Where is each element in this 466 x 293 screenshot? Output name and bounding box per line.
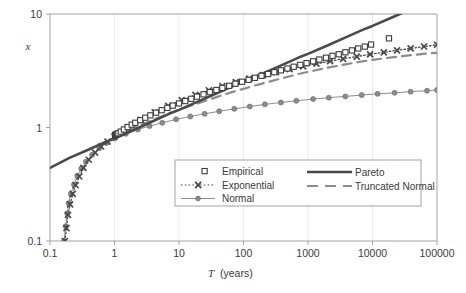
- data-point-marker: [183, 98, 188, 103]
- data-point-marker: [174, 117, 179, 122]
- data-point-marker: [143, 115, 148, 120]
- data-point-marker: [201, 92, 206, 97]
- data-point-marker: [220, 85, 225, 90]
- data-point-marker: [285, 66, 290, 71]
- data-point-marker: [278, 100, 283, 105]
- data-point-marker: [246, 77, 251, 82]
- data-point-marker: [375, 91, 380, 96]
- data-point-marker: [214, 87, 219, 92]
- data-point-marker: [148, 113, 153, 118]
- x-tick-label: 1: [112, 247, 118, 259]
- y-axis-title: x: [25, 40, 31, 52]
- data-point-marker: [359, 93, 364, 98]
- y-tick-label: 0.1: [27, 235, 42, 247]
- data-point-marker: [298, 62, 303, 67]
- x-tick-label: 0.1: [43, 247, 58, 259]
- data-point-marker: [294, 98, 299, 103]
- data-point-marker: [356, 46, 361, 51]
- data-point-marker: [194, 94, 199, 99]
- data-point-marker: [265, 71, 270, 76]
- data-point-marker: [217, 109, 222, 114]
- data-point-marker: [323, 55, 328, 60]
- data-point-marker: [176, 101, 181, 106]
- legend-marker-normal: [196, 196, 201, 201]
- data-point-marker: [252, 75, 257, 80]
- legend-label-empirical: Empirical: [222, 166, 263, 177]
- data-point-marker: [227, 83, 232, 88]
- data-point-marker: [311, 97, 316, 102]
- data-point-marker: [392, 90, 397, 95]
- chart-container: 0.1110100100010000100000 0.1110 T (years…: [0, 0, 466, 293]
- data-point-marker: [330, 53, 335, 58]
- data-point-marker: [343, 94, 348, 99]
- data-point-marker: [425, 88, 430, 93]
- x-tick-label: 10: [173, 247, 185, 259]
- chart-background: [0, 0, 466, 293]
- data-point-marker: [202, 111, 207, 116]
- data-point-marker: [189, 96, 194, 101]
- data-point-marker: [336, 52, 341, 57]
- legend-label-normal: Normal: [222, 193, 254, 204]
- x-tick-label: 1000: [296, 247, 320, 259]
- data-point-marker: [153, 110, 158, 115]
- data-point-marker: [317, 57, 322, 62]
- log-log-return-period-chart: 0.1110100100010000100000 0.1110 T (years…: [0, 0, 466, 293]
- data-point-marker: [349, 48, 354, 53]
- data-point-marker: [326, 95, 331, 100]
- x-tick-label: 10000: [358, 247, 387, 259]
- data-point-marker: [138, 118, 143, 123]
- data-point-marker: [160, 120, 165, 125]
- data-point-marker: [232, 106, 237, 111]
- data-point-marker: [291, 64, 296, 69]
- data-point-marker: [165, 105, 170, 110]
- legend-label-pareto: Pareto: [355, 167, 385, 178]
- data-point-marker: [259, 73, 264, 78]
- legend-label-exponential: Exponential: [222, 180, 274, 191]
- data-point-marker: [262, 102, 267, 107]
- data-point-marker: [159, 108, 164, 113]
- legend-label-truncated-normal: Truncated Normal: [355, 181, 435, 192]
- x-tick-label: 100000: [419, 247, 454, 259]
- data-point-marker: [278, 68, 283, 73]
- x-tick-label: 100: [235, 247, 253, 259]
- data-point-marker: [188, 114, 193, 119]
- data-point-marker: [170, 103, 175, 108]
- data-point-marker: [386, 36, 391, 41]
- data-point-marker: [368, 42, 373, 47]
- data-point-marker: [233, 81, 238, 86]
- data-point-marker: [408, 89, 413, 94]
- data-point-marker: [207, 90, 212, 95]
- data-point-marker: [239, 79, 244, 84]
- data-point-marker: [272, 70, 277, 75]
- x-axis-title-symbol: T: [208, 267, 215, 279]
- chart-legend: Empirical Exponential Normal Pareto Trun…: [175, 160, 435, 206]
- x-axis-title-units: (years): [220, 267, 253, 279]
- data-point-marker: [304, 61, 309, 66]
- data-point-marker: [247, 104, 252, 109]
- y-tick-label: 10: [30, 8, 42, 20]
- data-point-marker: [362, 44, 367, 49]
- data-point-marker: [311, 59, 316, 64]
- data-point-marker: [343, 50, 348, 55]
- y-tick-label: 1: [36, 122, 42, 134]
